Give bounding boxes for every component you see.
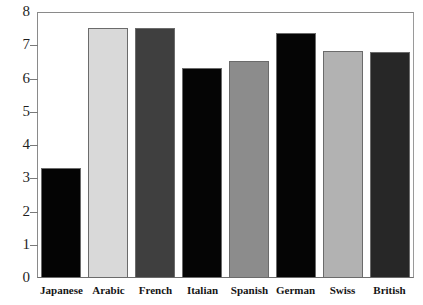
y-axis-tick-label: 1 — [6, 237, 30, 252]
x-axis-label-italian: Italian — [179, 283, 226, 297]
y-axis-tick — [30, 112, 38, 113]
y-axis-tick-label: 5 — [6, 104, 30, 119]
x-axis-label-german: German — [272, 283, 319, 297]
y-axis-tick — [30, 45, 38, 46]
y-axis-tick — [30, 178, 38, 179]
x-axis-label-arabic: Arabic — [85, 283, 132, 297]
x-axis-label-spanish: Spanish — [226, 283, 273, 297]
y-axis-tick — [30, 145, 38, 146]
y-axis-tick-label: 4 — [6, 137, 30, 152]
bar-arabic — [88, 28, 128, 278]
y-axis-tick-label: 7 — [6, 37, 30, 52]
bar-german — [276, 33, 316, 278]
x-axis-label-french: French — [132, 283, 179, 297]
bar-british — [370, 52, 410, 278]
y-axis-tick — [30, 212, 38, 213]
bar-spanish — [229, 61, 269, 278]
y-axis-tick-label: 6 — [6, 71, 30, 86]
bar-swiss — [323, 51, 363, 278]
y-axis-tick-label: 3 — [6, 170, 30, 185]
bar-japanese — [41, 168, 81, 278]
x-axis-label-swiss: Swiss — [319, 283, 366, 297]
x-axis-label-british: British — [366, 283, 413, 297]
bars-layer — [38, 13, 413, 278]
y-axis-tick-label: 2 — [6, 204, 30, 219]
y-axis-tick-label: 0 — [6, 270, 30, 285]
bar-french — [135, 28, 175, 278]
y-axis-tick — [30, 79, 38, 80]
bar-italian — [182, 68, 222, 278]
x-axis-label-japanese: Japanese — [38, 283, 85, 297]
y-axis-tick — [30, 245, 38, 246]
y-axis-tick-label: 8 — [6, 4, 30, 19]
y-axis: 012345678 — [0, 0, 30, 305]
x-axis: JapaneseArabicFrenchItalianSpanishGerman… — [38, 283, 413, 305]
bar-chart: 012345678 JapaneseArabicFrenchItalianSpa… — [0, 0, 423, 305]
